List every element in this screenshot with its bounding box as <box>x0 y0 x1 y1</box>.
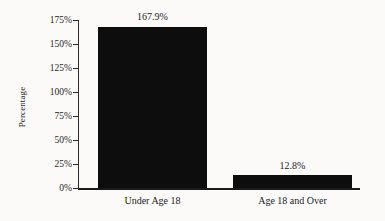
x-category-label-under-age-18: Under Age 18 <box>98 195 207 207</box>
y-tick-label-0: 0% <box>30 183 72 193</box>
y-tick-mark <box>73 44 79 45</box>
y-tick-label-150: 150% <box>30 39 72 49</box>
x-axis-line <box>78 188 360 190</box>
bar-under-age-18[interactable] <box>98 27 207 188</box>
y-tick-label-50: 50% <box>30 135 72 145</box>
y-tick-label-text: 150% <box>36 39 72 49</box>
y-tick-label-25: 25% <box>30 159 72 169</box>
y-axis-title: Percentage <box>17 72 27 142</box>
y-tick-mark <box>73 116 79 117</box>
y-tick-label-text: 25% <box>36 159 72 169</box>
y-tick-label-text: 175% <box>36 15 72 25</box>
y-tick-mark <box>73 92 79 93</box>
y-tick-mark <box>73 164 79 165</box>
y-tick-label-100: 100% <box>30 87 72 97</box>
y-tick-mark <box>73 68 79 69</box>
y-tick-label-text: 75% <box>36 111 72 121</box>
x-category-label-age-18-and-over: Age 18 and Over <box>233 195 352 207</box>
bar-chart: Percentage 175% 150% 125% 100% 75% 50% 2… <box>0 0 385 221</box>
y-axis-line <box>78 20 79 188</box>
y-tick-label-text: 100% <box>36 87 72 97</box>
y-tick-mark <box>73 188 79 189</box>
y-tick-label-175: 175% <box>30 15 72 25</box>
bar-value-under-age-18: 167.9% <box>98 11 207 22</box>
y-tick-label-125: 125% <box>30 63 72 73</box>
y-tick-mark <box>73 20 79 21</box>
y-tick-mark <box>73 140 79 141</box>
bar-value-age-18-and-over: 12.8% <box>233 160 352 171</box>
bar-age-18-and-over[interactable] <box>233 175 352 188</box>
y-tick-label-text: 50% <box>36 135 72 145</box>
y-tick-label-text: 125% <box>36 63 72 73</box>
y-tick-label-text: 0% <box>36 183 72 193</box>
y-tick-label-75: 75% <box>30 111 72 121</box>
